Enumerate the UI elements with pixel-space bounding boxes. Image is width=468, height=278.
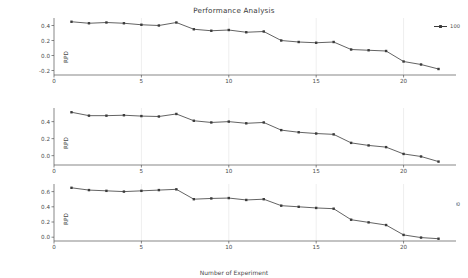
y-axis-label-200: RPD [63, 123, 69, 163]
y-tick-label: 0.2 [28, 219, 50, 225]
chart-panel-200: RPD 0.00.20.405101520 200 [0, 95, 468, 171]
y-tick-label: 0.6 [28, 189, 50, 195]
chart-panel-400: RPD 0.00.20.40.605101520 400 [0, 171, 468, 278]
y-tick-label: 0.2 [28, 38, 50, 44]
y-tick-label: -0.2 [28, 68, 50, 74]
x-tick-label: 20 [400, 78, 407, 84]
chart-panel-100: RPD -0.20.00.20.405101520 100 [0, 0, 468, 95]
x-tick-label: 5 [140, 78, 144, 84]
x-tick-label: 0 [52, 244, 56, 250]
x-tick-label: 10 [225, 78, 232, 84]
plot-area-400: RPD 0.00.20.40.605101520 [54, 184, 456, 241]
x-tick-label: 15 [313, 78, 320, 84]
legend-100[interactable]: 100 [434, 24, 460, 29]
y-tick-label: 0.0 [28, 153, 50, 159]
x-tick-label: 0 [52, 78, 56, 84]
y-axis-label-100: RPD [63, 37, 69, 77]
x-axis-label: Number of Experiment [0, 269, 468, 276]
series-svg-200 [54, 108, 456, 165]
y-tick-label: 0.2 [28, 136, 50, 142]
plot-area-100: RPD -0.20.00.20.405101520 [54, 18, 456, 75]
chart-figure: Performance Analysis RPD -0.20.00.20.405… [0, 0, 468, 278]
series-svg-100 [54, 18, 456, 75]
x-tick-label: 5 [140, 244, 144, 250]
y-tick-label: 0.4 [28, 119, 50, 125]
y-axis-label-400: RPD [63, 199, 69, 239]
y-tick-label: 0.0 [28, 53, 50, 59]
plot-area-200: RPD 0.00.20.405101520 [54, 108, 456, 165]
x-tick-label: 10 [225, 244, 232, 250]
legend-label-100: 100 [450, 24, 460, 29]
y-tick-label: 0.4 [28, 23, 50, 29]
y-tick-label: 0.0 [28, 234, 50, 240]
x-tick-label: 20 [400, 244, 407, 250]
legend-line-icon [434, 26, 447, 27]
y-tick-label: 0.4 [28, 204, 50, 210]
x-tick-label: 15 [313, 244, 320, 250]
series-svg-400 [54, 184, 456, 241]
